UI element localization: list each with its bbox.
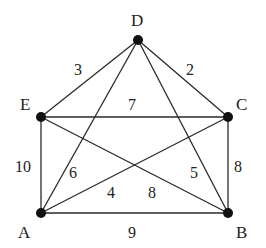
weight-A-C: 4 bbox=[107, 184, 115, 201]
weight-E-A: 10 bbox=[15, 158, 31, 175]
weight-D-A: 6 bbox=[69, 164, 77, 181]
node-D bbox=[133, 35, 143, 45]
weight-A-B: 9 bbox=[128, 224, 136, 241]
weight-C-B: 8 bbox=[234, 158, 242, 175]
node-label-A: A bbox=[18, 223, 31, 242]
weight-D-C: 2 bbox=[186, 61, 194, 78]
node-A bbox=[36, 208, 46, 218]
edge-D-C bbox=[138, 40, 228, 117]
weight-E-B: 8 bbox=[148, 184, 156, 201]
weight-D-E: 3 bbox=[74, 61, 82, 78]
edge-D-A bbox=[41, 40, 138, 213]
node-label-B: B bbox=[236, 223, 247, 242]
node-C bbox=[223, 112, 233, 122]
node-label-D: D bbox=[131, 11, 143, 30]
node-label-E: E bbox=[20, 95, 30, 114]
node-B bbox=[223, 208, 233, 218]
node-label-C: C bbox=[236, 95, 247, 114]
node-E bbox=[36, 112, 46, 122]
edge-D-E bbox=[41, 40, 138, 117]
weighted-graph: D E C A B 3 2 7 10 8 9 6 5 4 8 bbox=[0, 0, 266, 248]
weight-D-B: 5 bbox=[190, 164, 198, 181]
weight-E-C: 7 bbox=[128, 96, 136, 113]
